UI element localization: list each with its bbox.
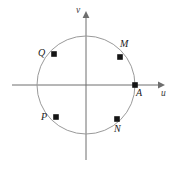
- point-label-p: P: [41, 112, 47, 122]
- u-axis-label: u: [161, 89, 166, 99]
- point-marker-q: [51, 51, 57, 57]
- point-marker-p: [53, 114, 59, 120]
- v-axis-label: v: [76, 6, 80, 16]
- point-marker-m: [117, 54, 123, 60]
- point-label-m: M: [120, 39, 128, 49]
- point-label-q: Q: [38, 48, 45, 58]
- v-axis-arrowhead: [83, 11, 90, 18]
- point-marker-n: [114, 116, 120, 122]
- unit-circle-figure: v u M Q A P N: [0, 0, 174, 169]
- point-label-a: A: [136, 88, 142, 98]
- figure-canvas: [0, 0, 174, 169]
- point-label-n: N: [114, 124, 121, 134]
